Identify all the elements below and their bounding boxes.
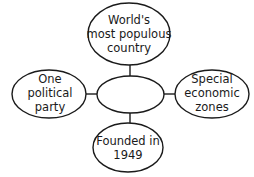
node-label-line: zones bbox=[195, 100, 228, 114]
node-label-line: party bbox=[35, 100, 66, 114]
node-label-line: Special bbox=[191, 72, 232, 86]
node-one-political-party: One political party bbox=[12, 70, 86, 118]
node-special-economic-zones: Special economic zones bbox=[175, 70, 249, 118]
spider-diagram: World's most populous country One politi… bbox=[0, 0, 254, 177]
node-label-line: World's bbox=[108, 13, 150, 27]
node-label-line: most populous bbox=[87, 27, 172, 41]
node-label-line: economic bbox=[184, 86, 239, 100]
node-label-line: country bbox=[107, 41, 151, 55]
node-label-line: political bbox=[28, 86, 73, 100]
node-label-line: Founded in bbox=[96, 134, 160, 148]
node-founded-in-1949: Founded in 1949 bbox=[93, 123, 163, 172]
center-node bbox=[97, 76, 164, 113]
node-label-line: 1949 bbox=[113, 148, 142, 162]
node-worlds-most-populous-country: World's most populous country bbox=[87, 3, 172, 65]
node-label-line: One bbox=[38, 72, 61, 86]
